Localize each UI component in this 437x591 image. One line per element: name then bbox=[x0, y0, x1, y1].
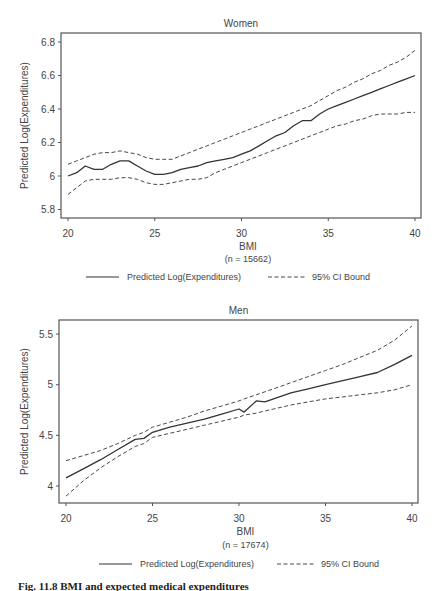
y-tick-label: 4 bbox=[47, 481, 53, 492]
x-tick-label: 20 bbox=[60, 513, 72, 524]
legend-solid-label: Predicted Log(Expenditures) bbox=[140, 559, 254, 569]
ci-bound-line bbox=[66, 326, 412, 461]
men-x-axis-label: BMI bbox=[237, 526, 255, 537]
men-title: Men bbox=[229, 305, 248, 316]
women-x-axis-label: BMI bbox=[239, 241, 257, 252]
ci-bound-line bbox=[68, 112, 415, 194]
x-tick-label: 20 bbox=[62, 228, 74, 239]
men-y-axis-label: Predicted Log(Expenditures) bbox=[19, 348, 30, 475]
men-sample-size: (n = 17674) bbox=[222, 540, 268, 550]
x-tick-label: 25 bbox=[147, 513, 159, 524]
x-tick-label: 30 bbox=[236, 228, 248, 239]
ci-bound-line bbox=[66, 385, 412, 496]
y-tick-label: 6.6 bbox=[41, 70, 55, 81]
men-chart: Men202530354044.555.5BMI(n = 17674)Predi… bbox=[19, 305, 418, 569]
y-tick-label: 5.8 bbox=[41, 204, 55, 215]
legend-dashed-label: 95% CI Bound bbox=[321, 559, 379, 569]
y-tick-label: 4.5 bbox=[39, 430, 53, 441]
women-sample-size: (n = 15662) bbox=[225, 254, 271, 264]
figure-canvas: Women20253035405.866.26.46.66.8BMI(n = 1… bbox=[0, 0, 437, 591]
y-tick-label: 5.5 bbox=[39, 329, 53, 340]
legend-solid-label: Predicted Log(Expenditures) bbox=[127, 272, 241, 282]
x-tick-label: 40 bbox=[409, 228, 421, 239]
ci-bound-line bbox=[68, 50, 415, 164]
figure-caption: Fig. 11.8 BMI and expected medical expen… bbox=[18, 580, 249, 591]
predicted-line bbox=[66, 355, 412, 478]
y-tick-label: 6.2 bbox=[41, 137, 55, 148]
y-tick-label: 5 bbox=[47, 379, 53, 390]
women-legend: Predicted Log(Expenditures)95% CI Bound bbox=[86, 272, 370, 282]
x-tick-label: 35 bbox=[323, 228, 335, 239]
women-y-axis-label: Predicted Log(Expenditures) bbox=[19, 62, 30, 189]
legend-dashed-label: 95% CI Bound bbox=[312, 272, 370, 282]
x-tick-label: 30 bbox=[233, 513, 245, 524]
women-chart: Women20253035405.866.26.46.66.8BMI(n = 1… bbox=[19, 18, 421, 282]
women-plot-area bbox=[61, 33, 421, 218]
x-tick-label: 35 bbox=[320, 513, 332, 524]
y-tick-label: 6 bbox=[49, 171, 55, 182]
x-tick-label: 40 bbox=[406, 513, 418, 524]
x-tick-label: 25 bbox=[149, 228, 161, 239]
y-tick-label: 6.4 bbox=[41, 104, 55, 115]
women-title: Women bbox=[224, 18, 258, 29]
y-tick-label: 6.8 bbox=[41, 37, 55, 48]
predicted-line bbox=[68, 76, 415, 177]
men-legend: Predicted Log(Expenditures)95% CI Bound bbox=[99, 559, 379, 569]
men-plot-area bbox=[59, 320, 418, 503]
